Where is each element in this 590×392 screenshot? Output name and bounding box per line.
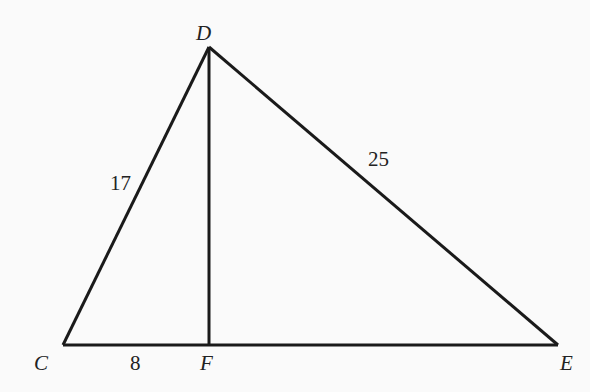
- segment-de: [209, 47, 558, 345]
- vertex-label-e: E: [559, 351, 573, 375]
- vertex-label-f: F: [199, 351, 213, 375]
- geometry-diagram: D C F E 17 25 8: [0, 0, 590, 392]
- length-label-cd: 17: [110, 171, 131, 195]
- segment-cd: [63, 47, 209, 345]
- length-label-de: 25: [368, 147, 389, 171]
- vertex-label-d: D: [195, 21, 211, 45]
- vertex-label-c: C: [34, 351, 49, 375]
- length-label-cf: 8: [130, 351, 141, 375]
- triangle-figure: D C F E 17 25 8: [0, 0, 590, 392]
